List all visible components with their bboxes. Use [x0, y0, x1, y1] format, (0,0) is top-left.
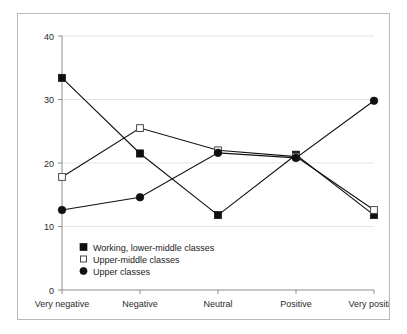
series-layer — [58, 74, 378, 218]
y-tick-label-30: 30 — [44, 95, 54, 105]
x-tick-label-neutral: Neutral — [203, 299, 232, 309]
x-tick-label-very-negative: Very negative — [35, 299, 90, 309]
figure-container: 40 30 20 10 0 Very negative Negative Neu… — [0, 0, 407, 334]
line-chart: 40 30 20 10 0 Very negative Negative Neu… — [18, 14, 389, 319]
legend-label-upper-classes: Upper classes — [93, 267, 151, 277]
y-tick-label-40: 40 — [44, 32, 54, 42]
y-tick-label-20: 20 — [44, 159, 54, 169]
x-tick-label-positive: Positive — [280, 299, 312, 309]
chart-legend: Working, lower-middle classes Upper-midd… — [80, 243, 215, 277]
x-tick-marks — [62, 290, 374, 294]
x-tick-label-negative: Negative — [122, 299, 158, 309]
data-point — [371, 207, 378, 214]
data-point — [214, 211, 221, 218]
x-tick-label-very-positive: Very positive — [348, 299, 389, 309]
data-point — [214, 149, 222, 157]
gridlines — [62, 36, 374, 227]
x-tick-labels: Very negative Negative Neutral Positive … — [35, 299, 389, 309]
data-point — [136, 193, 144, 201]
data-point — [58, 74, 65, 81]
legend-marker-upper-classes — [80, 267, 87, 274]
chart-frame: 40 30 20 10 0 Very negative Negative Neu… — [17, 13, 390, 320]
legend-marker-working-lower-middle — [80, 244, 87, 251]
data-point — [58, 206, 66, 214]
series-2 — [59, 125, 378, 214]
data-point — [370, 97, 378, 105]
y-tick-label-0: 0 — [49, 286, 54, 296]
data-point — [292, 154, 300, 162]
series-3 — [58, 97, 378, 214]
data-point — [59, 174, 66, 181]
legend-label-working-lower-middle: Working, lower-middle classes — [93, 243, 215, 253]
legend-marker-upper-middle — [81, 256, 87, 262]
data-point — [136, 150, 143, 157]
data-point — [137, 125, 144, 132]
series-line-2 — [62, 128, 374, 210]
legend-label-upper-middle: Upper-middle classes — [93, 255, 180, 265]
y-tick-labels: 40 30 20 10 0 — [44, 32, 54, 296]
y-tick-label-10: 10 — [44, 222, 54, 232]
